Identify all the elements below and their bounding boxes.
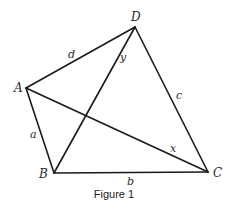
segment-label-x: x [170, 142, 177, 155]
vertex-label-a: A [13, 81, 23, 95]
vertex-label-d: D [130, 10, 141, 24]
segment-label-b: b [127, 175, 134, 188]
segment-bc [54, 172, 208, 173]
figure-caption: Figure 1 [94, 188, 134, 200]
quadrilateral-diagram: ABCD dabcxy Figure 1 [0, 0, 231, 203]
segment-label-y: y [119, 51, 127, 64]
vertex-labels: ABCD [13, 10, 222, 181]
segment-label-a: a [30, 128, 37, 141]
vertex-label-c: C [213, 166, 222, 180]
segment-label-c: c [176, 89, 182, 102]
vertex-label-b: B [38, 167, 48, 181]
segment-label-d: d [68, 48, 75, 61]
